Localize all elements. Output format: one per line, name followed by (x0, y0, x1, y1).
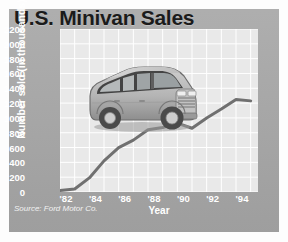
x-tick-label: '94 (236, 193, 249, 204)
y-tick-label: 1600 (0, 68, 25, 79)
x-tick-label: '82 (60, 193, 73, 204)
x-tick-label: '86 (118, 193, 131, 204)
y-tick-label: 200 (0, 172, 25, 183)
x-tick-label: '90 (177, 193, 190, 204)
chart-figure: U.S. Minivan Sales Number sold (in thous… (0, 0, 288, 242)
y-tick-label: 400 (0, 157, 25, 168)
x-tick-label: '92 (206, 193, 219, 204)
y-tick-label: 2000 (0, 38, 25, 49)
source-note: Source: Ford Motor Co. (14, 204, 98, 213)
y-tick-label: 0 (0, 187, 25, 198)
y-tick-label: 600 (0, 142, 25, 153)
y-tick-label: 2200 (0, 24, 25, 35)
x-tick-label: '84 (89, 193, 102, 204)
y-tick-label: 1200 (0, 98, 25, 109)
x-tick-label: '88 (148, 193, 161, 204)
minivan-illustration (84, 58, 198, 136)
y-tick-label: 1400 (0, 83, 25, 94)
page-title: U.S. Minivan Sales (14, 6, 264, 30)
y-tick-label: 1800 (0, 53, 25, 64)
y-tick-label: 1000 (0, 112, 25, 123)
y-tick-label: 800 (0, 127, 25, 138)
